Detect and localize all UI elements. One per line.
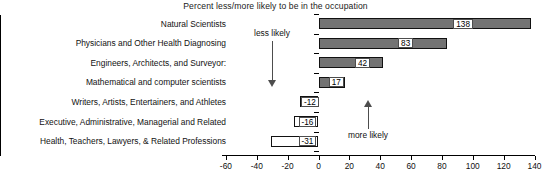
x-tick-label: 40 (376, 161, 385, 171)
bar (319, 38, 447, 49)
x-tick-label: 140 (528, 161, 542, 171)
x-tick (380, 156, 381, 160)
bar-value-label: 42 (355, 58, 370, 68)
annotation-more-likely-shaft (368, 107, 369, 129)
x-tick (504, 156, 505, 160)
x-tick (319, 156, 320, 160)
x-axis-line (222, 155, 535, 156)
x-tick (257, 156, 258, 160)
x-tick-label: 0 (316, 161, 321, 171)
annotation-less-likely-shaft (272, 41, 273, 81)
x-tick-label: 60 (406, 161, 415, 171)
zero-axis-line (0, 15, 1, 156)
annotation-less-likely-label: less likely (254, 28, 290, 38)
x-tick (288, 156, 289, 160)
category-tick (314, 53, 319, 54)
x-tick-label: 20 (345, 161, 354, 171)
plot-area: -60-40-20020406080100120140 138834217-12… (0, 0, 551, 179)
annotation-more-likely-label: more likely (348, 130, 388, 140)
x-tick-label: 120 (497, 161, 511, 171)
x-tick (226, 156, 227, 160)
category-tick (314, 73, 319, 74)
bar-chart: Percent less/more likely to be in the oc… (0, 0, 551, 179)
bar-value-label: -12 (301, 97, 319, 107)
x-tick-label: -40 (251, 161, 263, 171)
bar (319, 18, 532, 29)
bar-value-label: 17 (329, 77, 344, 87)
category-tick (314, 34, 319, 35)
category-tick (314, 151, 319, 152)
x-tick (411, 156, 412, 160)
bar (319, 57, 384, 68)
category-tick (314, 14, 319, 15)
x-tick-label: 80 (437, 161, 446, 171)
x-tick (473, 156, 474, 160)
x-tick-label: -20 (282, 161, 294, 171)
x-tick-label: -60 (220, 161, 232, 171)
arrow-up-icon (364, 100, 372, 107)
x-tick (442, 156, 443, 160)
x-tick (349, 156, 350, 160)
arrow-down-icon (268, 80, 276, 87)
category-tick (314, 92, 319, 93)
bar-value-label: 83 (398, 38, 413, 48)
bar-value-label: -16 (299, 117, 317, 127)
bar-value-label: -31 (299, 136, 317, 146)
category-tick (314, 132, 319, 133)
bar-value-label: 138 (453, 19, 473, 29)
x-tick-label: 100 (466, 161, 480, 171)
category-tick (314, 112, 319, 113)
x-tick (535, 156, 536, 160)
